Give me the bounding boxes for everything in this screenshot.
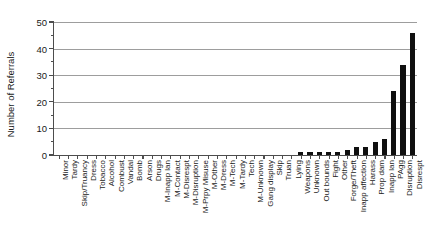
x-tick-label: Out bounds — [323, 160, 331, 237]
x-tick-label: Drugs — [155, 160, 163, 237]
x-tick-label-wrapper: M-Dress — [220, 82, 228, 160]
x-tick-label-wrapper: M-Tardy — [239, 82, 247, 160]
x-tick-label: M-Unknown — [257, 160, 265, 237]
y-tick-label: 20 — [36, 96, 47, 107]
y-tick-label: 30 — [36, 70, 47, 81]
x-tick-label-wrapper: Combust — [118, 82, 126, 160]
x-tick-label-wrapper: Gang display — [267, 82, 275, 160]
x-tick-label-wrapper: M-Prpy Misuse — [202, 82, 210, 160]
x-tick-label-wrapper: Disruption — [406, 82, 414, 160]
x-tick-label: Vandal — [127, 160, 135, 237]
x-tick-label-wrapper: Weapons — [304, 82, 312, 160]
y-tick-label: 0 — [42, 150, 47, 161]
x-tick-label: Minor — [62, 160, 70, 237]
x-tick-label-wrapper: Tobacco — [99, 82, 107, 160]
x-tick-label: Other — [341, 160, 349, 237]
x-tick-label: M-Dress — [220, 160, 228, 237]
x-tick-label: M-Prpy Misuse — [202, 160, 210, 237]
y-axis-title: Number of Referrals — [4, 17, 18, 172]
x-tick-label-wrapper: M-Other — [211, 82, 219, 160]
x-tick-label-wrapper: M-Tech — [229, 82, 237, 160]
x-tick-label-wrapper: PAgg — [397, 82, 405, 160]
x-tick-label-wrapper: M-Inapp lan — [164, 82, 172, 160]
y-tick-label: 40 — [36, 43, 47, 54]
x-tick-label-wrapper: Tardy — [71, 82, 79, 160]
x-tick-label: Skip/Truancy — [81, 160, 89, 237]
x-tick-label: M-Inapp lan — [164, 160, 172, 237]
x-tick-label: M-Tardy — [239, 160, 247, 237]
y-tick-label: 10 — [36, 123, 47, 134]
y-tick-label: 50 — [36, 17, 47, 28]
x-tick-label: Inapp affection — [360, 160, 368, 237]
x-tick-label-wrapper: M-Disrespt — [183, 82, 191, 160]
x-tick-label-wrapper: Out bounds — [323, 82, 331, 160]
x-tick-label-wrapper: Harass — [369, 82, 377, 160]
x-tick-label: M-Disruption — [192, 160, 200, 237]
x-tick-label-wrapper: Alcohol — [108, 82, 116, 160]
x-tick-label-wrapper: Arson — [146, 82, 154, 160]
x-tick-label-wrapper: Vandal — [127, 82, 135, 160]
x-tick-label: Dress — [90, 160, 98, 237]
x-tick-label: Harass — [369, 160, 377, 237]
x-tick-label: Forge/Theft — [350, 160, 358, 237]
x-tick-label: Alcohol — [108, 160, 116, 237]
x-tick-label-wrapper: Skip/Truancy — [81, 82, 89, 160]
x-tick-label-wrapper: Dress — [90, 82, 98, 160]
x-tick-label-wrapper: M-Unknown — [257, 82, 265, 160]
x-tick-label: Disruption — [406, 160, 414, 237]
x-tick-label-wrapper: Other — [341, 82, 349, 160]
x-tick-label: Tech — [248, 160, 256, 237]
x-tick-label-wrapper: Bomb — [136, 82, 144, 160]
x-tick-label: M-Disrespt — [183, 160, 191, 237]
x-tick-label-wrapper: Minor — [62, 82, 70, 160]
x-tick-label: Inapp lan — [388, 160, 396, 237]
x-tick-mark — [59, 155, 60, 159]
x-tick-label: M-Tech — [229, 160, 237, 237]
x-tick-label: Skip — [276, 160, 284, 237]
x-tick-label-wrapper: Inapp lan — [388, 82, 396, 160]
x-tick-label: Tobacco — [99, 160, 107, 237]
x-tick-label-wrapper: Tech — [248, 82, 256, 160]
x-tick-label-wrapper: Truan — [285, 82, 293, 160]
x-tick-label-wrapper: Drugs — [155, 82, 163, 160]
x-tick-label: Gang display — [267, 160, 275, 237]
x-tick-label-wrapper: Forge/Theft — [350, 82, 358, 160]
x-tick-label-wrapper: Skip — [276, 82, 284, 160]
x-tick-label: Arson — [146, 160, 154, 237]
x-tick-label-wrapper: M-Disruption — [192, 82, 200, 160]
plot-area: 01020304050 MinorTardySkip/TruancyDressT… — [53, 22, 417, 156]
x-tick-label: Bomb — [136, 160, 144, 237]
x-tick-label: Prop dam — [378, 160, 386, 237]
chart-figure: Number of Referrals 01020304050 MinorTar… — [0, 0, 427, 237]
x-tick-label: Truan — [285, 160, 293, 237]
x-tick-label-wrapper: Inapp affection — [360, 82, 368, 160]
x-tick-label-wrapper: Disrespt — [416, 82, 424, 160]
x-tick-label-wrapper: Lying — [295, 82, 303, 160]
x-tick-label: Combust — [118, 160, 126, 237]
x-tick-label-wrapper: Unknown — [313, 82, 321, 160]
x-tick-label: Weapons — [304, 160, 312, 237]
x-tick-label: Tardy — [71, 160, 79, 237]
x-tick-label-wrapper: Fight — [332, 82, 340, 160]
x-tick-label-wrapper: M-Contact — [174, 82, 182, 160]
x-tick-label: Lying — [295, 160, 303, 237]
x-tick-label-wrapper: Prop dam — [378, 82, 386, 160]
x-tick-label: M-Contact — [174, 160, 182, 237]
x-tick-label: Fight — [332, 160, 340, 237]
x-tick-label: Disrespt — [416, 160, 424, 237]
x-tick-label: M-Other — [211, 160, 219, 237]
x-tick-label: PAgg — [397, 160, 405, 237]
x-tick-label: Unknown — [313, 160, 321, 237]
